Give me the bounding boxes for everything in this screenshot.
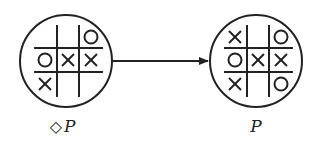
node-label: P xyxy=(63,116,76,136)
x-mark xyxy=(252,54,264,66)
x-mark xyxy=(85,54,97,66)
board-cells xyxy=(39,31,98,91)
o-mark xyxy=(275,78,288,91)
x-mark xyxy=(229,78,241,90)
node-right xyxy=(210,15,302,107)
x-mark xyxy=(62,54,74,66)
o-mark xyxy=(275,31,288,44)
label-right: P xyxy=(249,116,262,136)
o-mark xyxy=(39,54,52,67)
diagram-canvas: ◇ P P xyxy=(0,0,317,143)
board-cells xyxy=(229,31,288,91)
label-left: ◇ P xyxy=(50,116,76,136)
diamond-icon: ◇ xyxy=(50,117,63,136)
x-mark xyxy=(275,54,287,66)
x-mark xyxy=(229,31,241,43)
o-mark xyxy=(229,54,242,67)
o-mark xyxy=(85,31,98,44)
node-left xyxy=(20,15,112,107)
x-mark xyxy=(39,78,51,90)
node-label: P xyxy=(249,116,262,136)
